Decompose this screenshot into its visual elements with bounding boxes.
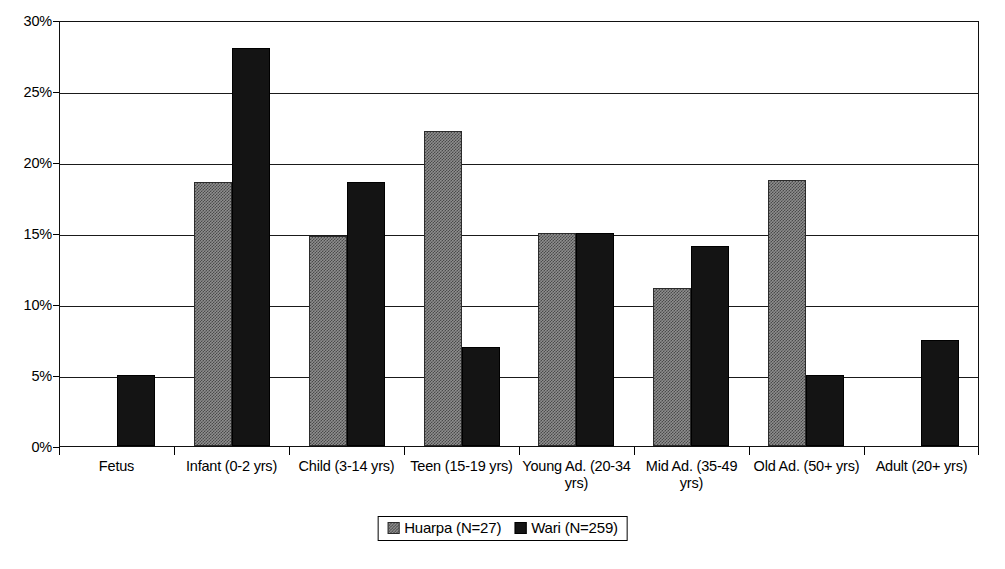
bar-wari[interactable] [691, 246, 729, 446]
x-tick-mark [289, 447, 290, 455]
y-tick-label: 10% [0, 298, 52, 312]
solid-black-swatch [514, 522, 526, 534]
x-tick-mark [978, 447, 979, 455]
x-axis-labels: FetusInfant (0-2 yrs)Child (3-14 yrs)Tee… [59, 458, 979, 508]
x-tick-mark [749, 447, 750, 455]
bar-wari[interactable] [576, 233, 614, 446]
plot-area [59, 21, 979, 447]
bar-huarpa[interactable] [538, 233, 576, 446]
bar-group [60, 22, 175, 446]
bar-slot [806, 22, 844, 446]
chart-legend: Huarpa (N=27)Wari (N=259) [377, 516, 628, 541]
x-category-label: Mid Ad. (35-49 yrs) [634, 458, 749, 508]
bar-group [634, 22, 749, 446]
x-tick-mark [864, 447, 865, 455]
x-tick-mark [59, 447, 60, 455]
bar-slot [309, 22, 347, 446]
bar-wari[interactable] [921, 340, 959, 447]
bar-slot [538, 22, 576, 446]
bar-chart: 0%5%10%15%20%25%30% FetusInfant (0-2 yrs… [0, 0, 1005, 569]
bar-wari[interactable] [806, 375, 844, 446]
bar-slot [347, 22, 385, 446]
bar-slot [691, 22, 729, 446]
bar-slot [653, 22, 691, 446]
bar-slot [768, 22, 806, 446]
y-tick-label: 20% [0, 156, 52, 170]
x-tick-mark [634, 447, 635, 455]
x-category-label: Child (3-14 yrs) [289, 458, 404, 508]
x-category-label: Fetus [59, 458, 174, 508]
bar-group [404, 22, 519, 446]
bar-slot [194, 22, 232, 446]
bar-slot [424, 22, 462, 446]
x-category-label: Adult (20+ yrs) [864, 458, 979, 508]
x-category-label: Infant (0-2 yrs) [174, 458, 289, 508]
x-category-label: Old Ad. (50+ yrs) [749, 458, 864, 508]
dithered-gray-swatch [387, 522, 399, 534]
x-category-label: Teen (15-19 yrs) [404, 458, 519, 508]
bar-huarpa[interactable] [653, 288, 691, 446]
x-axis-ticks [59, 447, 979, 456]
bar-group [175, 22, 290, 446]
bar-slot [79, 22, 117, 446]
y-tick-label: 5% [0, 369, 52, 383]
bar-series-layer [60, 22, 978, 446]
bar-huarpa[interactable] [194, 182, 232, 446]
bar-slot [232, 22, 270, 446]
legend-entry[interactable]: Huarpa (N=27) [387, 520, 501, 536]
bar-wari[interactable] [462, 347, 500, 446]
y-tick-label: 30% [0, 14, 52, 28]
bar-slot [462, 22, 500, 446]
legend-entry[interactable]: Wari (N=259) [514, 520, 618, 536]
x-tick-mark [519, 447, 520, 455]
bar-huarpa[interactable] [424, 131, 462, 446]
bar-wari[interactable] [347, 182, 385, 446]
y-tick-label: 25% [0, 85, 52, 99]
bar-slot [883, 22, 921, 446]
x-tick-mark [404, 447, 405, 455]
y-axis: 0%5%10%15%20%25%30% [0, 0, 52, 460]
bar-group [519, 22, 634, 446]
bar-slot [117, 22, 155, 446]
bar-group [863, 22, 978, 446]
bar-wari[interactable] [232, 48, 270, 446]
bar-slot [921, 22, 959, 446]
x-tick-mark [174, 447, 175, 455]
y-tick-label: 15% [0, 227, 52, 241]
y-tick-label: 0% [0, 440, 52, 454]
legend-label: Huarpa (N=27) [404, 520, 501, 536]
bar-slot [576, 22, 614, 446]
legend-label: Wari (N=259) [531, 520, 618, 536]
x-category-label: Young Ad. (20-34 yrs) [519, 458, 634, 508]
bar-wari[interactable] [117, 375, 155, 446]
bar-group [749, 22, 864, 446]
bar-group [290, 22, 405, 446]
bar-huarpa[interactable] [309, 236, 347, 446]
bar-huarpa[interactable] [768, 180, 806, 446]
